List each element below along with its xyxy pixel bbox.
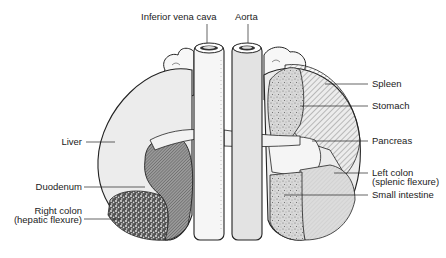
label-inferior-vena-cava: Inferior vena cava xyxy=(141,12,217,22)
label-small-intestine: Small intestine xyxy=(372,190,434,200)
label-liver: Liver xyxy=(30,137,82,147)
label-duodenum: Duodenum xyxy=(10,182,82,192)
small-intestine-region xyxy=(270,172,305,240)
label-aorta: Aorta xyxy=(235,12,258,22)
label-pancreas: Pancreas xyxy=(372,136,412,146)
label-stomach: Stomach xyxy=(372,101,410,111)
right-colon-region xyxy=(108,191,171,240)
label-right-colon-sub: (hepatic flexure) xyxy=(0,215,82,225)
label-spleen: Spleen xyxy=(372,79,402,89)
aorta xyxy=(232,45,262,240)
left-colon-region xyxy=(300,165,355,240)
inferior-vena-cava xyxy=(194,45,224,240)
label-left-colon-sub: (splenic flexure) xyxy=(372,177,439,187)
